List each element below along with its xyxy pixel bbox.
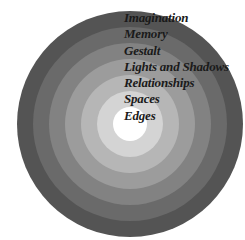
label-memory: Memory bbox=[124, 26, 229, 42]
ring-labels: Imagination Memory Gestalt Lights and Sh… bbox=[124, 10, 229, 124]
label-spaces: Spaces bbox=[124, 91, 229, 107]
label-lights-and-shadows: Lights and Shadows bbox=[124, 59, 229, 75]
label-gestalt: Gestalt bbox=[124, 43, 229, 59]
label-imagination: Imagination bbox=[124, 10, 229, 26]
label-relationships: Relationships bbox=[124, 75, 229, 91]
label-edges: Edges bbox=[124, 108, 229, 124]
